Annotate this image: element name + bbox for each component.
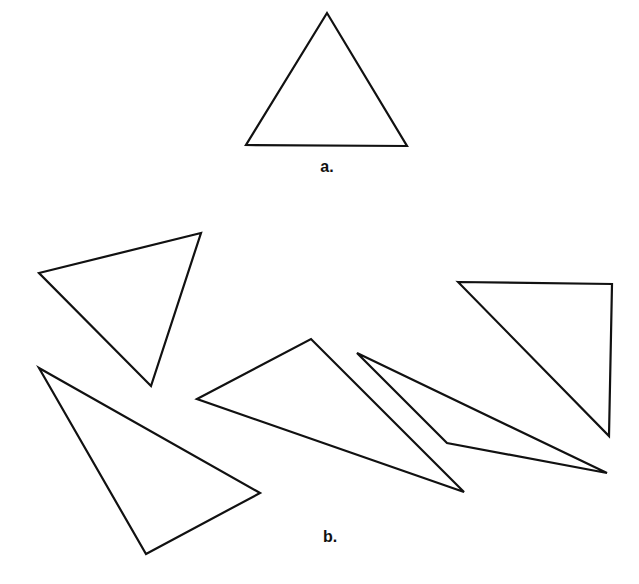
part-b-group [39, 233, 612, 554]
part-a-group [246, 13, 407, 146]
label-a: a. [320, 158, 333, 176]
label-b: b. [323, 528, 337, 546]
triangle-b1 [39, 233, 201, 386]
triangle-a-equilateral [246, 13, 407, 146]
triangle-b3 [197, 339, 464, 492]
triangle-b4 [357, 353, 607, 473]
triangle-b2 [39, 368, 260, 554]
triangle-diagram [0, 0, 639, 584]
